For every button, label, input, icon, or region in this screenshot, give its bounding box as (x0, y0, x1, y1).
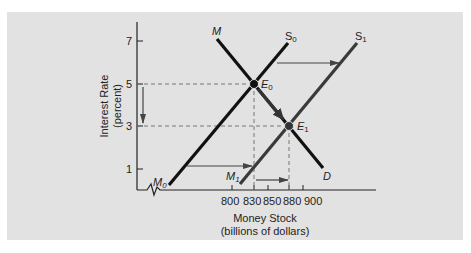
y-tick-1: 1 (126, 163, 132, 175)
x-axis-subtitle: (billions of dollars) (221, 225, 310, 237)
y-axis-subtitle: (percent) (111, 84, 123, 128)
y-tick-3: 3 (126, 120, 132, 132)
label-m0: M0 (153, 176, 167, 190)
equilibrium-e0-dot (250, 80, 259, 89)
x-tick-830: 830 (243, 195, 261, 207)
x-axis-with-break (137, 184, 376, 195)
supply-curve-s1 (240, 43, 357, 184)
x-axis-title: Money Stock (233, 212, 297, 224)
y-tick-7: 7 (126, 35, 132, 47)
y-tick-5: 5 (126, 78, 132, 90)
label-m: M (212, 25, 222, 37)
money-market-chart: 7 5 3 1 800 830 850 880 900 Interest Rat… (0, 0, 471, 253)
label-m1: M1 (226, 170, 240, 184)
label-e0: E0 (261, 78, 273, 92)
label-s1: S1 (355, 30, 367, 44)
axes (137, 22, 376, 195)
y-axis-title: Interest Rate (98, 75, 110, 138)
x-tick-850: 850 (263, 195, 281, 207)
x-tick-900: 900 (304, 195, 322, 207)
label-d: D (323, 170, 331, 182)
x-tick-800: 800 (221, 195, 239, 207)
demand-movement-arrow (258, 89, 283, 119)
label-e1: E1 (297, 120, 309, 134)
label-s0: S0 (285, 30, 297, 44)
x-tick-880: 880 (283, 195, 301, 207)
equilibrium-e1-dot (285, 122, 294, 131)
supply-curve-s0 (169, 43, 288, 185)
